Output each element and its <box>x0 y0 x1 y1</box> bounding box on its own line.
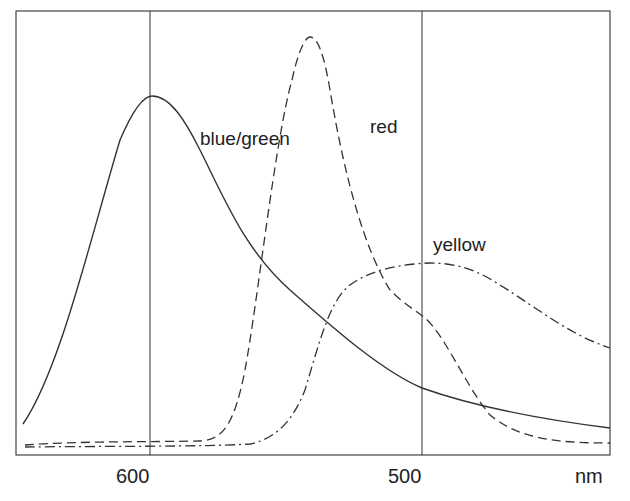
x-tick-500: 500 <box>388 465 421 488</box>
series-blue-green <box>23 96 610 428</box>
series-red <box>25 37 610 445</box>
chart-canvas <box>0 0 630 501</box>
label-yellow: yellow <box>433 234 486 256</box>
label-blue-green: blue/green <box>200 128 290 150</box>
x-axis-unit: nm <box>575 465 603 488</box>
plot-frame <box>16 11 610 455</box>
x-tick-600: 600 <box>116 465 149 488</box>
series-yellow <box>25 263 610 447</box>
label-red: red <box>370 116 397 138</box>
